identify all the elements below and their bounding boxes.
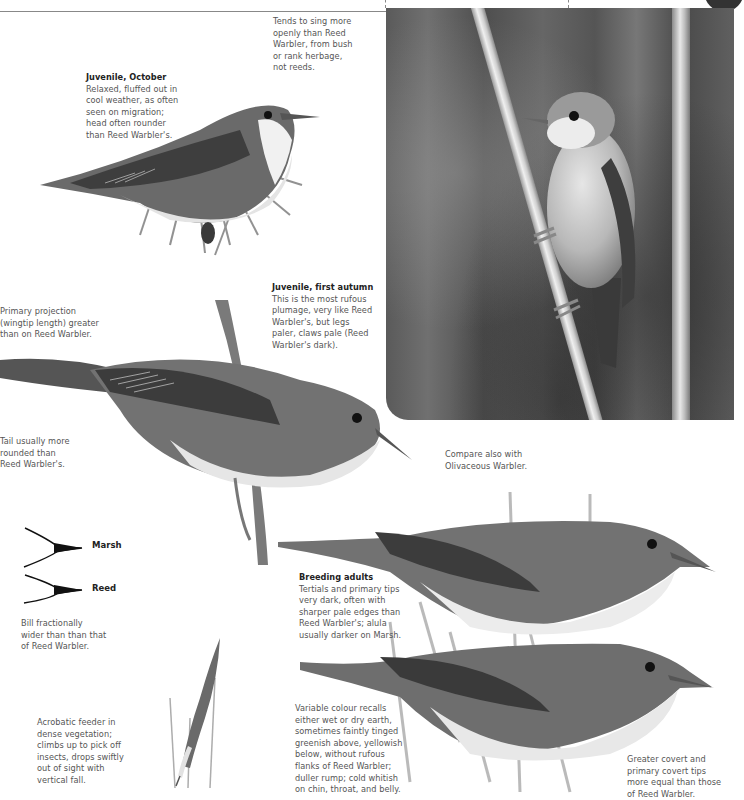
photo-bird-icon (386, 8, 734, 420)
note-tail: Tail usually more rounded than Reed Warb… (0, 436, 70, 471)
note-breeding-adults: Breeding adults Tertials and primary tip… (299, 572, 401, 642)
note-compare: Compare also with Olivaceous Warbler. (445, 449, 527, 472)
note-song: Tends to sing more openly than Reed Warb… (273, 16, 352, 74)
note-bill: Bill fractionally wider than than that o… (21, 618, 106, 653)
bill-comparison-marsh-icon (20, 525, 90, 605)
bill-label-marsh: Marsh (92, 540, 122, 550)
note-acrobatic: Acrobatic feeder in dense vegetation; cl… (37, 717, 124, 787)
bill-label-reed: Reed (92, 583, 116, 593)
top-caption-box: visual clues. (385, 0, 569, 8)
photo-warbler-on-reed (386, 8, 734, 420)
note-title: Juvenile, October (86, 72, 178, 84)
note-title: Juvenile, first autumn (272, 282, 373, 294)
note-variable-colour: Variable colour recalls either wet or dr… (295, 703, 402, 796)
illustration-acrobatic-feeder (160, 638, 230, 788)
note-coverts: Greater covert and primary covert tips m… (627, 754, 721, 800)
illustration-juvenile-october (30, 85, 330, 260)
top-caption-fragment: visual clues. (398, 0, 447, 1)
note-title: Breeding adults (299, 572, 401, 584)
